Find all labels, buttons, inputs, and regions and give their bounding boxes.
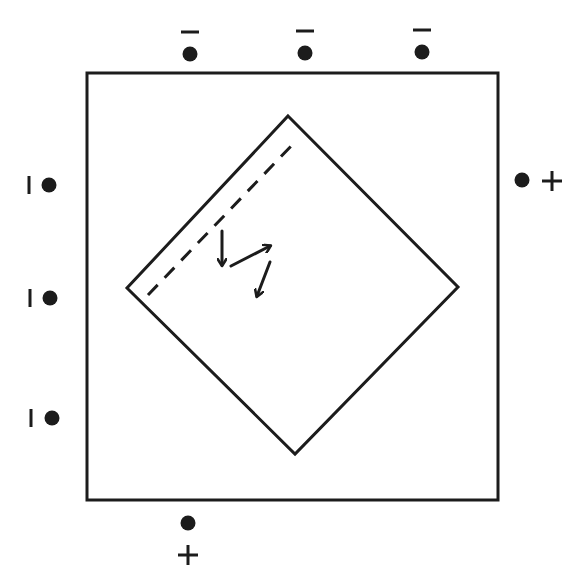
charge-top-2 — [296, 31, 314, 61]
charge-left-3 — [31, 409, 60, 427]
charge-bottom-1 — [178, 516, 198, 566]
charges-group — [29, 30, 562, 565]
diagram-canvas — [0, 0, 588, 575]
inner-diamond — [127, 116, 458, 454]
charge-dot-icon — [298, 46, 313, 61]
diagram-svg — [0, 0, 588, 575]
diamond-border — [127, 116, 458, 454]
arrows-group — [222, 231, 270, 296]
charge-dot-icon — [183, 47, 198, 62]
arrow-down-left-icon — [257, 262, 270, 296]
charge-dot-icon — [515, 173, 530, 188]
charge-dot-icon — [45, 411, 60, 426]
charge-left-1 — [29, 176, 57, 194]
charge-left-2 — [30, 289, 58, 307]
charge-right-1 — [515, 171, 563, 191]
charge-dot-icon — [42, 178, 57, 193]
arrow-up-right-icon — [231, 246, 270, 266]
charge-dot-icon — [415, 45, 430, 60]
outer-square — [87, 73, 498, 500]
charge-top-3 — [413, 30, 431, 60]
dashed-line-segment — [148, 143, 294, 295]
charge-dot-icon — [43, 291, 58, 306]
plus-sign-icon — [178, 545, 198, 565]
charge-dot-icon — [181, 516, 196, 531]
outer-square-border — [87, 73, 498, 500]
dashed-line — [148, 143, 294, 295]
plus-sign-icon — [542, 171, 562, 191]
charge-top-1 — [181, 32, 199, 62]
